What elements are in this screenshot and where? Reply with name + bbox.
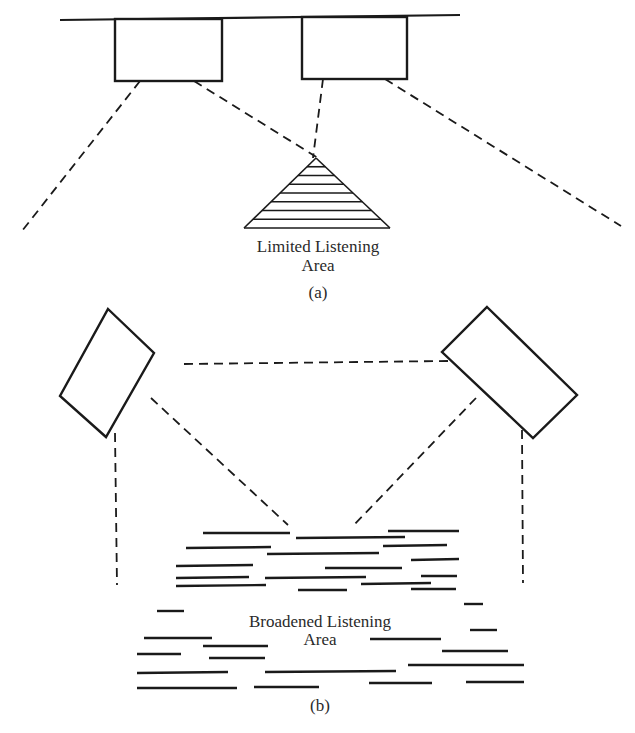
- coverage-bar: [265, 577, 366, 578]
- sound-beams-b: [115, 361, 523, 585]
- dashed-beam-line: [313, 79, 323, 158]
- broadened-listening-label: Broadened Listening: [249, 612, 392, 631]
- broadened-listening-area: [137, 531, 524, 688]
- dashed-beam-line: [194, 81, 318, 158]
- speaker-placement-diagram: Limited Listening Area (a) Broadened Lis…: [0, 0, 635, 733]
- dashed-beam-line: [151, 398, 288, 525]
- coverage-bar: [383, 545, 447, 546]
- right-speaker: [442, 307, 577, 438]
- dashed-beam-line: [115, 433, 117, 585]
- coverage-bar: [265, 671, 396, 672]
- coverage-bar: [176, 585, 266, 586]
- dashed-beam-line: [184, 361, 448, 364]
- coverage-bar: [267, 553, 379, 554]
- speakers-a: [115, 17, 407, 81]
- coverage-bar: [176, 577, 249, 578]
- coverage-bar: [361, 583, 431, 584]
- sound-beams-a: [22, 79, 621, 231]
- dashed-beam-line: [522, 430, 523, 583]
- broadened-area-label: Area: [303, 630, 336, 649]
- coverage-bar: [296, 537, 405, 538]
- coverage-bar: [176, 565, 253, 566]
- limited-area-label: Area: [301, 256, 334, 275]
- dashed-beam-line: [385, 79, 621, 226]
- coverage-bar: [186, 547, 271, 548]
- left-speaker: [115, 19, 222, 81]
- diagram-b: Broadened Listening Area (b): [60, 307, 577, 715]
- dashed-beam-line: [22, 81, 140, 231]
- right-speaker: [302, 17, 407, 79]
- coverage-bar: [137, 672, 228, 673]
- limited-listening-area: [244, 158, 390, 228]
- left-speaker: [60, 309, 154, 437]
- speakers-b: [60, 307, 577, 438]
- caption-b: (b): [310, 696, 330, 715]
- dashed-beam-line: [354, 398, 476, 525]
- limited-listening-label: Limited Listening: [257, 237, 380, 256]
- caption-a: (a): [309, 283, 328, 302]
- diagram-a: Limited Listening Area (a): [22, 15, 621, 302]
- coverage-bar: [411, 559, 459, 560]
